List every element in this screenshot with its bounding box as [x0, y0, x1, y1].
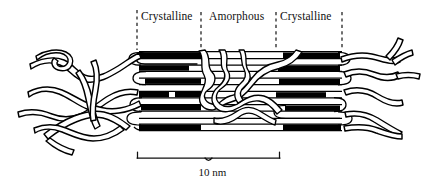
amorphous-chain	[344, 88, 403, 106]
amorphous-chain	[396, 73, 420, 80]
semicrystalline-polymer-figure: Crystalline Amorphous Crystalline 10 nm	[0, 0, 427, 187]
scale-bar-label-wrapper: 10 nm	[0, 166, 427, 178]
crystalline-stem	[139, 66, 189, 71]
amorphous-chains-left	[18, 50, 141, 155]
amorphous-chain	[46, 138, 74, 155]
label-crystalline-left: Crystalline	[141, 10, 193, 22]
crystalline-stem	[139, 125, 201, 131]
crystalline-stem	[139, 92, 169, 97]
crystalline-stem	[145, 79, 201, 84]
amorphous-chains-right	[341, 38, 420, 139]
crystalline-stem	[175, 92, 201, 97]
label-amorphous: Amorphous	[209, 10, 264, 22]
crystalline-stem	[279, 79, 340, 84]
crystalline-stem	[276, 92, 326, 97]
amorphous-chain	[344, 69, 401, 80]
scale-bar-label: 10 nm	[199, 166, 227, 178]
scale-bar	[137, 152, 280, 160]
label-crystalline-right: Crystalline	[280, 10, 332, 22]
polymer-chain-diagram	[0, 0, 427, 187]
amorphous-tie-chains-middle	[199, 50, 302, 125]
crystalline-stem	[278, 66, 340, 71]
crystalline-stem	[141, 105, 201, 110]
crystalline-stem	[283, 125, 341, 131]
crystalline-stem	[139, 53, 201, 59]
crystalline-stem	[285, 106, 340, 111]
